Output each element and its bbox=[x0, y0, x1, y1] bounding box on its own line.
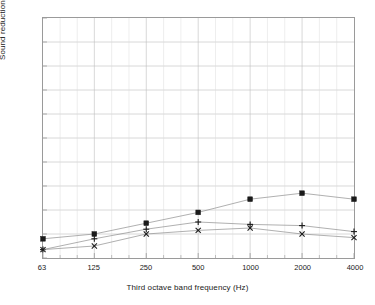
x-axis-title: Third octave band frequency (Hz) bbox=[0, 283, 375, 292]
x-tick-label: 4000 bbox=[335, 264, 375, 272]
x-tick-label: 250 bbox=[126, 264, 166, 272]
x-tick-label: 1000 bbox=[231, 264, 271, 272]
series-cross bbox=[40, 225, 356, 252]
series-square bbox=[41, 191, 357, 241]
x-tick-label: 63 bbox=[22, 264, 62, 272]
plot-area bbox=[42, 17, 355, 259]
x-tick-label: 2000 bbox=[283, 264, 323, 272]
x-tick-label: 125 bbox=[74, 264, 114, 272]
x-tick-label: 500 bbox=[178, 264, 218, 272]
series-plus bbox=[40, 219, 357, 253]
chart-figure: Sound reduction index (dB) 0102030405060… bbox=[0, 0, 375, 305]
data-series bbox=[43, 18, 354, 258]
